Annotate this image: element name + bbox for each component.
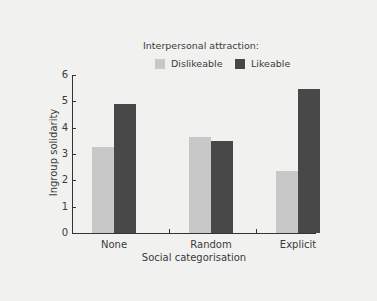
bar-explicit-likeable [298,89,320,233]
legend-item-dislikeable: Dislikeable [155,58,223,69]
x-axis-category-label: Random [171,239,251,250]
legend-swatch-dislikeable [155,59,165,69]
bar-none-likeable [114,104,136,233]
y-axis-tick-label: 6 [56,70,68,80]
y-axis-tick-label: 5 [56,96,68,106]
legend-label-dislikeable: Dislikeable [171,58,223,69]
x-axis-tick [169,229,170,233]
x-axis-tick [256,229,257,233]
y-axis-line [72,75,73,234]
y-axis-tick-label: 2 [56,175,68,185]
x-axis-line [72,233,316,234]
y-axis-tick-label: 0 [56,228,68,238]
bar-explicit-dislikeable [276,171,298,233]
x-axis-category-label: None [74,239,154,250]
y-axis-tick-label: 3 [56,149,68,159]
legend-swatch-likeable [235,59,245,69]
bar-random-dislikeable [189,137,211,233]
y-axis-tick-label: 1 [56,202,68,212]
bar-random-likeable [211,141,233,233]
legend-title: Interpersonal attraction: [143,40,259,51]
x-axis-title: Social categorisation [72,252,316,263]
legend-item-likeable: Likeable [235,58,290,69]
x-axis-category-label: Explicit [258,239,338,250]
chart-panel: Interpersonal attraction: Dislikeable Li… [0,0,377,301]
legend-label-likeable: Likeable [251,58,290,69]
y-axis-tick-label: 4 [56,123,68,133]
bar-none-dislikeable [92,147,114,233]
